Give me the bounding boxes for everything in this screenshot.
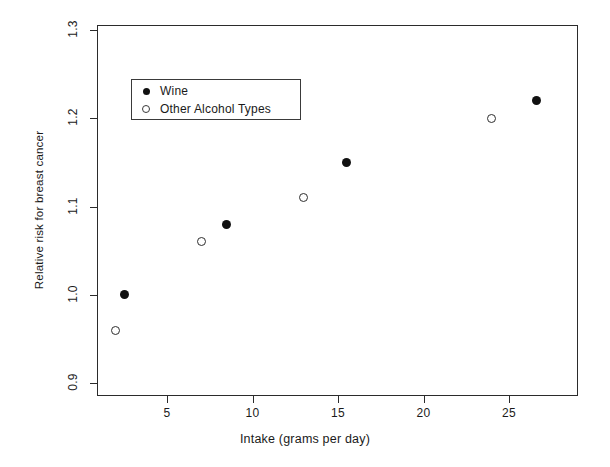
x-axis-title: Intake (grams per day) — [0, 432, 610, 446]
y-tick-label: 1.3 — [66, 16, 80, 42]
filled-circle-icon — [132, 88, 160, 95]
x-tick-label: 5 — [147, 406, 187, 420]
y-tick-mark — [90, 30, 97, 31]
x-tick-label: 15 — [318, 406, 358, 420]
legend-item-wine: Wine — [132, 82, 300, 100]
chart-legend: Wine Other Alcohol Types — [131, 79, 301, 120]
y-axis-title: Relative risk for breast cancer — [33, 100, 45, 320]
x-tick-mark — [424, 396, 425, 403]
x-tick-label: 20 — [404, 406, 444, 420]
y-tick-mark — [90, 383, 97, 384]
data-point — [532, 96, 541, 105]
y-tick-mark — [90, 295, 97, 296]
open-circle-icon — [132, 105, 160, 113]
x-tick-label: 25 — [489, 406, 529, 420]
y-tick-label: 1.2 — [66, 104, 80, 130]
legend-label: Other Alcohol Types — [160, 102, 271, 116]
y-tick-label: 0.9 — [66, 369, 80, 395]
y-tick-mark — [90, 207, 97, 208]
x-tick-mark — [167, 396, 168, 403]
data-point — [111, 326, 120, 335]
x-tick-mark — [338, 396, 339, 403]
x-tick-mark — [253, 396, 254, 403]
x-tick-mark — [509, 396, 510, 403]
y-tick-label: 1.1 — [66, 193, 80, 219]
y-tick-mark — [90, 118, 97, 119]
data-point — [342, 158, 351, 167]
legend-label: Wine — [160, 84, 188, 98]
scatter-plot-figure: 510152025 0.91.01.11.21.3 Intake (grams … — [0, 0, 610, 467]
legend-item-other-alcohol-types: Other Alcohol Types — [132, 100, 300, 118]
y-tick-label: 1.0 — [66, 281, 80, 307]
x-tick-label: 10 — [233, 406, 273, 420]
